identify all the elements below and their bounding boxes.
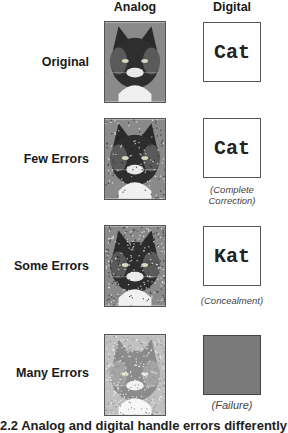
digital-box-some-errors: Kat — [203, 226, 261, 286]
cat-image — [105, 119, 165, 199]
digital-box-original: Cat — [203, 22, 261, 82]
note-concealment: (Concealment) — [196, 295, 268, 306]
note-failure: (Failure) — [196, 400, 268, 411]
row-label-original: Original — [42, 55, 89, 69]
row-label-some-errors: Some Errors — [14, 259, 89, 273]
cat-photo-few-errors — [104, 118, 166, 200]
cat-image — [105, 226, 165, 306]
column-header-analog: Analog — [104, 0, 166, 14]
digital-text: Cat — [214, 41, 250, 64]
cat-photo-many-errors — [104, 334, 166, 416]
cat-photo-original — [104, 21, 166, 103]
column-header-digital: Digital — [200, 0, 264, 14]
figure-caption: 2.2 Analog and digital handle errors dif… — [0, 418, 287, 433]
note-complete-correction: (Complete Correction) — [202, 184, 262, 206]
row-label-many-errors: Many Errors — [16, 366, 89, 380]
cat-image — [105, 335, 165, 415]
cat-photo-some-errors — [104, 225, 166, 307]
digital-box-few-errors: Cat — [203, 118, 261, 178]
row-label-few-errors: Few Errors — [24, 152, 89, 166]
digital-text: Cat — [214, 137, 250, 160]
digital-text: Kat — [214, 245, 250, 268]
digital-box-failure — [203, 335, 261, 395]
cat-image — [105, 22, 165, 102]
